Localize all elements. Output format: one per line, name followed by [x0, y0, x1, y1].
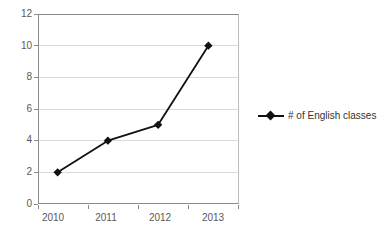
x-tick-mark: [138, 205, 139, 209]
x-tick-label: 2010: [33, 212, 73, 223]
plot-area: [38, 14, 239, 204]
line-chart: 12 10 8 6 4 2 0 2010 2011 2012 2013: [0, 0, 382, 234]
legend-label: # of English classes: [288, 110, 376, 121]
y-tick-label: 0: [8, 199, 32, 209]
y-tick-label: 12: [8, 9, 32, 19]
legend-marker-icon: [258, 111, 284, 121]
x-tick-mark: [88, 205, 89, 209]
gridline: [39, 109, 238, 110]
x-tick-label: 2013: [193, 212, 233, 223]
y-tick-label: 8: [8, 72, 32, 82]
x-tick-label: 2011: [86, 212, 126, 223]
y-tick-label: 10: [8, 41, 32, 51]
gridline: [39, 77, 238, 78]
gridline: [39, 140, 238, 141]
y-tick-label: 6: [8, 104, 32, 114]
y-tick-label: 4: [8, 135, 32, 145]
x-tick-label: 2012: [140, 212, 180, 223]
x-tick-mark: [188, 205, 189, 209]
y-tick-label: 2: [8, 167, 32, 177]
gridline: [39, 45, 238, 46]
x-tick-mark: [38, 205, 39, 209]
x-tick-mark: [238, 205, 239, 209]
legend: # of English classes: [258, 110, 376, 121]
gridline: [39, 172, 238, 173]
